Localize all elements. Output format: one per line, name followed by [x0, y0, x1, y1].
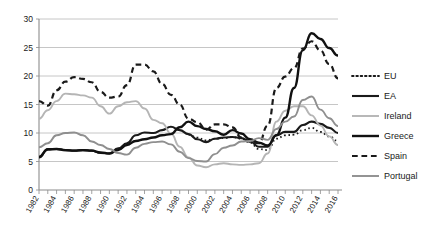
x-tick-label: 1990 [94, 194, 111, 214]
y-tick-label: 10 [24, 128, 34, 138]
x-tick-label: 2014 [305, 194, 322, 214]
legend-item-ea[interactable]: EA [352, 91, 396, 101]
x-tick-label: 1984 [42, 194, 59, 214]
legend-label-eu: EU [384, 71, 397, 81]
legend-item-eu[interactable]: EU [352, 71, 397, 81]
legend-label-spain: Spain [384, 151, 407, 161]
legend-item-spain[interactable]: Spain [352, 151, 407, 161]
x-tick-label: 2006 [235, 194, 252, 214]
y-tick-label: 0 [28, 185, 33, 195]
x-axis: 1982198419861988199019921994199619982000… [24, 190, 342, 214]
legend-label-greece: Greece [384, 131, 414, 141]
x-tick-label: 2002 [200, 194, 217, 214]
legend-item-greece[interactable]: Greece [352, 131, 414, 141]
chart-canvas: 051015202530 198219841986198819901992199… [0, 0, 434, 233]
y-axis: 051015202530 [24, 14, 39, 195]
series-line-ea [39, 122, 338, 158]
unemployment-line-chart: 051015202530 198219841986198819901992199… [0, 0, 434, 233]
x-tick-label: 2008 [253, 194, 270, 214]
y-tick-label: 25 [24, 43, 34, 53]
y-tick-label: 5 [28, 157, 33, 167]
legend-label-ea: EA [384, 91, 396, 101]
y-tick-label: 15 [24, 100, 34, 110]
x-tick-label: 1982 [24, 194, 41, 214]
x-tick-label: 1992 [112, 194, 129, 214]
x-tick-label: 1988 [77, 194, 94, 214]
x-tick-label: 1986 [59, 194, 76, 214]
data-series [39, 33, 338, 167]
series-line-spain [39, 41, 338, 143]
y-tick-label: 20 [24, 71, 34, 81]
x-tick-label: 2012 [288, 194, 305, 214]
legend-item-ireland[interactable]: Ireland [352, 111, 412, 121]
x-tick-label: 2000 [182, 194, 199, 214]
legend-label-ireland: Ireland [384, 111, 412, 121]
x-tick-label: 1998 [165, 194, 182, 214]
x-tick-label: 1994 [130, 194, 147, 214]
chart-legend: EUEAIrelandGreeceSpainPortugal [352, 71, 418, 181]
x-tick-label: 2004 [218, 194, 235, 214]
x-tick-label: 2010 [270, 194, 287, 214]
x-tick-label: 1996 [147, 194, 164, 214]
legend-label-portugal: Portugal [384, 171, 418, 181]
y-tick-label: 30 [24, 14, 34, 24]
legend-item-portugal[interactable]: Portugal [352, 171, 418, 181]
x-tick-label: 2016 [323, 194, 340, 214]
